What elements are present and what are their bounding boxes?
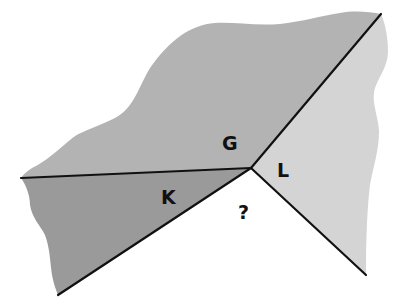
label-l: L [277, 159, 289, 181]
region-k [21, 168, 251, 295]
label-unknown: ? [238, 201, 249, 223]
label-k: K [161, 186, 177, 208]
label-g: G [222, 132, 238, 154]
angle-diagram: G K L ? [0, 0, 399, 299]
